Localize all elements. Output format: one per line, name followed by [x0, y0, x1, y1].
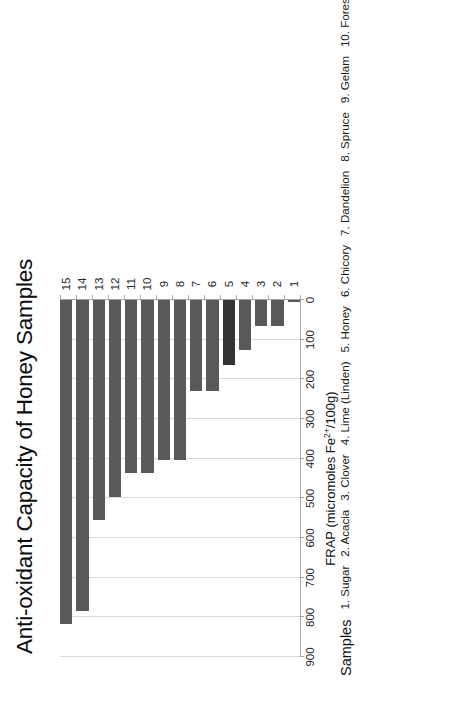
value-axis-line — [300, 300, 301, 657]
legend-heading: Samples — [338, 620, 354, 676]
category-tick — [140, 295, 141, 299]
category-tick — [284, 295, 285, 299]
category-tick-label: 2 — [271, 269, 283, 299]
category-tick-label: 8 — [174, 269, 186, 299]
legend-item: 10. Forest — [338, 0, 351, 47]
category-tick-label: 9 — [158, 269, 170, 299]
bar-row — [60, 300, 72, 657]
category-tick-label: 10 — [141, 269, 153, 299]
category-tick — [92, 295, 93, 299]
category-tick — [124, 295, 125, 299]
bar-row — [109, 300, 121, 657]
bar-row — [288, 300, 300, 657]
legend: Samples 1. Sugar2. Acacia3. Clover4. Lim… — [338, 16, 354, 676]
bar-row — [141, 300, 153, 657]
value-axis-title-prefix: FRAP (micromoles Fe — [323, 438, 338, 566]
value-axis-title-suffix: /100g) — [323, 391, 338, 428]
bar-row — [255, 300, 267, 657]
legend-item: 8. Spruce — [338, 112, 351, 162]
bar — [174, 300, 186, 460]
legend-item-list: 1. Sugar2. Acacia3. Clover4. Lime (Linde… — [338, 0, 351, 610]
bar-row — [223, 300, 235, 657]
category-tick-label: 5 — [223, 269, 235, 299]
bar — [190, 300, 202, 391]
bar — [206, 300, 218, 391]
category-tick-label: 1 — [288, 269, 300, 299]
category-tick — [76, 295, 77, 299]
category-tick-label: 13 — [93, 269, 105, 299]
category-tick — [60, 295, 61, 299]
value-tick-labels: 0100200300400500600700800900 — [304, 300, 320, 657]
category-tick-labels: 123456789101112131415 — [60, 269, 300, 299]
value-tick-label: 300 — [304, 409, 316, 428]
bar — [239, 300, 251, 350]
category-tick — [220, 295, 221, 299]
value-axis-title: FRAP (micromoles Fe2+/100g) — [322, 300, 338, 657]
bar — [60, 300, 72, 624]
value-tick-label: 700 — [304, 568, 316, 587]
bar-row — [93, 300, 105, 657]
bar — [125, 300, 137, 473]
bar-row — [76, 300, 88, 657]
category-tick — [268, 295, 269, 299]
bar-row — [206, 300, 218, 657]
category-tick-label: 3 — [255, 269, 267, 299]
page-title: Anti-oxidant Capacity of Honey Samples — [12, 259, 38, 654]
category-tick — [236, 295, 237, 299]
category-tick-label: 12 — [109, 269, 121, 299]
plot-area — [60, 300, 300, 657]
value-tick-label: 600 — [304, 528, 316, 547]
value-tick-label: 0 — [304, 297, 316, 303]
category-tick-label: 7 — [190, 269, 202, 299]
category-tick-label: 11 — [125, 269, 137, 299]
value-tick-label: 100 — [304, 330, 316, 349]
category-tick-label: 6 — [206, 269, 218, 299]
legend-item: 5. Honey — [338, 306, 351, 352]
category-tick — [204, 295, 205, 299]
bar-row — [158, 300, 170, 657]
legend-item: 2. Acacia — [338, 510, 351, 557]
value-tick-label: 900 — [304, 647, 316, 666]
bar — [93, 300, 105, 520]
bar-series — [60, 300, 300, 657]
category-tick-label: 15 — [60, 269, 72, 299]
category-tick — [108, 295, 109, 299]
legend-item: 6. Chicory — [338, 245, 351, 297]
category-tick — [156, 295, 157, 299]
category-tick-label: 4 — [239, 269, 251, 299]
rotated-figure-stage: Anti-oxidant Capacity of Honey Samples S… — [0, 0, 449, 720]
value-tick-label: 400 — [304, 449, 316, 468]
legend-item: 3. Clover — [338, 454, 351, 500]
bar-row — [239, 300, 251, 657]
bar — [158, 300, 170, 460]
legend-item: 4. Lime (Linden) — [338, 362, 351, 446]
category-tick — [188, 295, 189, 299]
bar — [288, 300, 300, 302]
category-tick — [252, 295, 253, 299]
bar — [271, 300, 283, 326]
legend-item: 9. Gelam — [338, 56, 351, 103]
bar-row — [125, 300, 137, 657]
legend-item: 7. Dandelion — [338, 171, 351, 236]
value-tick-label: 800 — [304, 608, 316, 627]
category-tick-label: 14 — [76, 269, 88, 299]
bar-row — [174, 300, 186, 657]
legend-item: 1. Sugar — [338, 566, 351, 610]
value-tick-label: 200 — [304, 370, 316, 389]
chart-figure: Anti-oxidant Capacity of Honey Samples S… — [0, 0, 449, 720]
category-tick — [172, 295, 173, 299]
bar — [76, 300, 88, 611]
bar — [223, 300, 235, 365]
bar — [141, 300, 153, 473]
bar — [109, 300, 121, 497]
bar-row — [271, 300, 283, 657]
value-tick-label: 500 — [304, 489, 316, 508]
bar-row — [190, 300, 202, 657]
value-axis-title-superscript: 2+ — [322, 428, 332, 438]
bar — [255, 300, 267, 326]
